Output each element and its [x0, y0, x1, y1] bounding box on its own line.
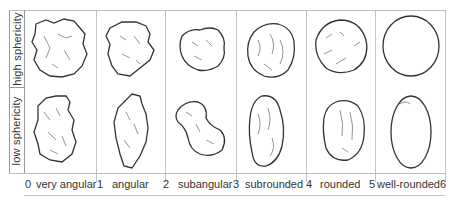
class-label-subangular: subangular	[178, 178, 232, 190]
scale-underline	[24, 195, 446, 196]
grain-subrounded-low-icon	[242, 90, 292, 172]
scale-tick-1: 1	[97, 178, 103, 190]
grain-rounded-high-icon	[312, 14, 370, 78]
grain-angular-low-icon	[108, 90, 154, 174]
class-label-rounded: rounded	[320, 178, 360, 190]
scale-tick-0: 0	[25, 178, 31, 190]
scale-tick-6: 6	[440, 178, 446, 190]
row-label-low-sphericity: low sphericity	[9, 88, 24, 173]
scale-tick-4: 4	[306, 178, 312, 190]
grain-well-rounded-low-icon	[388, 92, 434, 172]
grid-bottom-line	[9, 173, 445, 174]
class-label-subrounded: subrounded	[245, 178, 303, 190]
column-divider	[306, 10, 307, 182]
column-divider	[375, 10, 376, 182]
scale-tick-5: 5	[369, 178, 375, 190]
grain-subangular-low-icon	[170, 96, 232, 162]
grain-very-angular-low-icon	[30, 92, 82, 168]
class-label-angular: angular	[112, 178, 149, 190]
grain-well-rounded-high-icon	[379, 12, 443, 82]
grain-rounded-low-icon	[318, 96, 368, 166]
class-label-well-rounded: well-rounded	[377, 178, 440, 190]
column-divider	[165, 10, 166, 182]
grain-subangular-high-icon	[170, 14, 232, 84]
grain-subrounded-high-icon	[240, 14, 302, 86]
row-label-high-sphericity: high sphericity	[9, 10, 24, 87]
scale-tick-3: 3	[233, 178, 239, 190]
column-divider	[236, 10, 237, 182]
grain-angular-high-icon	[100, 14, 162, 84]
column-divider	[96, 10, 97, 182]
class-label-very-angular: very angular	[36, 178, 97, 190]
grain-very-angular-high-icon	[28, 14, 92, 84]
scale-tick-2: 2	[163, 178, 169, 190]
column-divider	[445, 10, 446, 182]
